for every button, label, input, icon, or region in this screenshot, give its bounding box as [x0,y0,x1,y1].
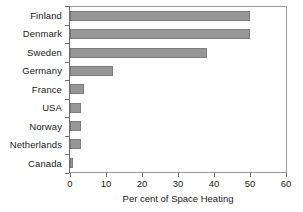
x-axis-tick-label-60: 60 [281,178,292,190]
bar-row-sweden [70,44,286,62]
bars-container [70,7,286,172]
y-axis-category-labels: Finland Denmark Sweden Germany France US… [0,6,66,173]
bar-netherlands [70,139,81,149]
bar-usa [70,103,81,113]
bar-norway [70,121,81,131]
bar-germany [70,66,113,76]
bar-canada [70,158,73,168]
x-axis-tick-label-50: 50 [245,178,256,190]
x-axis-tick-label-30: 30 [173,178,184,190]
bar-sweden [70,48,207,58]
bar-row-finland [70,7,286,25]
y-axis-label-france: France [0,80,66,99]
bar-row-canada [70,154,286,172]
bar-row-denmark [70,25,286,43]
x-axis-title: Per cent of Space Heating [69,193,287,205]
bar-row-netherlands [70,135,286,153]
x-axis-tick-label-0: 0 [67,178,72,190]
y-axis-tick-3 [65,62,69,63]
y-axis-tick-2 [65,43,69,44]
y-axis-label-germany: Germany [0,62,66,81]
x-axis-tick-60 [286,173,287,177]
x-axis-tick-label-10: 10 [101,178,112,190]
bar-row-usa [70,99,286,117]
x-axis-tick-label-20: 20 [137,178,148,190]
y-axis-tick-6 [65,117,69,118]
bar-finland [70,11,250,21]
bar-denmark [70,29,250,39]
x-axis-tick-50 [250,173,251,177]
x-axis-tick-0 [70,173,71,177]
bar-row-norway [70,117,286,135]
bar-chart: Finland Denmark Sweden Germany France US… [0,0,303,212]
y-axis-label-sweden: Sweden [0,43,66,62]
x-axis-tick-10 [106,173,107,177]
x-axis-tick-label-40: 40 [209,178,220,190]
x-axis-tick-30 [178,173,179,177]
y-axis-tick-7 [65,136,69,137]
x-axis-tick-40 [214,173,215,177]
bar-row-germany [70,62,286,80]
y-axis-line [69,6,70,173]
y-axis-label-netherlands: Netherlands [0,136,66,155]
x-axis-tick-20 [142,173,143,177]
y-axis-tick-4 [65,80,69,81]
y-axis-label-norway: Norway [0,117,66,136]
y-axis-tick-1 [65,25,69,26]
y-axis-label-finland: Finland [0,6,66,25]
y-axis-tick-0 [65,6,69,7]
y-axis-tick-8 [65,154,69,155]
y-axis-label-canada: Canada [0,155,66,174]
bar-row-france [70,80,286,98]
y-axis-label-usa: USA [0,99,66,118]
bar-france [70,84,84,94]
y-axis-label-denmark: Denmark [0,25,66,44]
x-axis-tick-labels: 0102030405060 [0,178,303,191]
y-axis-tick-5 [65,99,69,100]
